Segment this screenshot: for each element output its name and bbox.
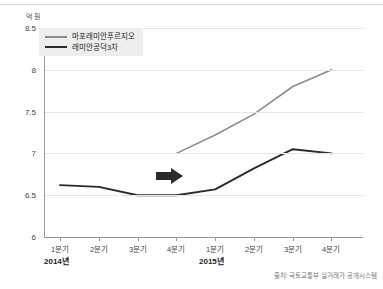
x-tick-mark-7	[331, 237, 332, 241]
plot-area	[44, 28, 363, 237]
x-tick-mark-4	[215, 237, 216, 241]
x-axis-line	[44, 237, 363, 238]
x-tick-mark-3	[176, 237, 177, 241]
legend-label-1: 래미안공덕3차	[72, 44, 118, 52]
gridline-7	[44, 153, 363, 154]
chart-page: 억 원 8.5 8 7.5 7 6.5 6 1분기 2분기 3분기	[0, 0, 383, 289]
gridline-8	[44, 70, 363, 71]
x-tick-label-6: 3분기	[273, 246, 313, 254]
legend-swatch-line-1	[45, 46, 67, 48]
series-lines	[44, 28, 363, 237]
x-tick-mark-1	[99, 237, 100, 241]
source-note: 출처: 국토교통부 실거래가 공개시스템	[274, 270, 377, 280]
gridline-7_5	[44, 112, 363, 113]
y-axis-unit-label: 억 원	[26, 11, 41, 21]
x-tick-label-7: 4분기	[311, 246, 351, 254]
x-tick-mark-2	[138, 237, 139, 241]
y-axis-line	[44, 28, 45, 238]
legend-swatch-line-0	[45, 36, 67, 38]
x-tick-mark-6	[293, 237, 294, 241]
y-tick-label-8_5: 8.5	[0, 25, 36, 33]
top-divider	[0, 4, 383, 5]
y-tick-label-6: 6	[0, 234, 36, 242]
y-tick-label-7_5: 7.5	[0, 109, 36, 117]
legend-item-0: 마포래미안푸르지오	[45, 33, 135, 41]
chart-legend: 마포래미안푸르지오 래미안공덕3차	[39, 28, 143, 56]
legend-item-1: 래미안공덕3차	[45, 44, 135, 52]
x-tick-label-5: 2분기	[234, 246, 274, 254]
y-tick-label-7: 7	[0, 150, 36, 158]
y-tick-label-6_5: 6.5	[0, 192, 36, 200]
x-group-label-2014: 2014년	[44, 258, 69, 266]
x-tick-label-3: 4분기	[156, 246, 196, 254]
x-tick-label-0: 1분기	[40, 246, 80, 254]
gridline-6_5	[44, 195, 363, 196]
legend-label-0: 마포래미안푸르지오	[72, 33, 135, 41]
x-tick-mark-0	[60, 237, 61, 241]
x-tick-label-2: 3분기	[118, 246, 158, 254]
x-tick-mark-5	[254, 237, 255, 241]
x-tick-label-1: 2분기	[79, 246, 119, 254]
x-tick-label-4: 1분기	[195, 246, 235, 254]
x-group-label-2015: 2015년	[199, 258, 224, 266]
arrow-right-icon	[156, 168, 184, 184]
y-tick-label-8: 8	[0, 67, 36, 75]
